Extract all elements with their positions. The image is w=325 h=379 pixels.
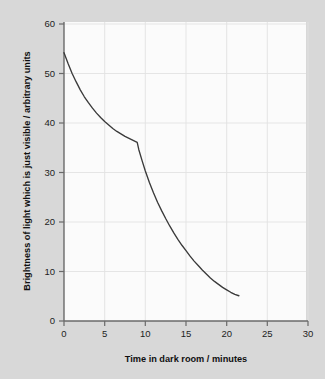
y-tick-label: 50 bbox=[44, 68, 55, 79]
y-tick-label: 30 bbox=[44, 167, 55, 178]
y-tick-label: 10 bbox=[44, 266, 55, 277]
chart-figure: 0 10 20 30 40 50 60 0 5 10 15 20 25 30 T… bbox=[0, 0, 325, 379]
y-tick-label: 60 bbox=[44, 18, 55, 29]
x-tick-label: 30 bbox=[303, 328, 314, 339]
x-tick-label: 10 bbox=[140, 328, 151, 339]
cropped-text-remnant bbox=[0, 0, 3, 1]
y-tick-label: 40 bbox=[44, 117, 55, 128]
x-tick-label: 5 bbox=[102, 328, 107, 339]
plot-panel bbox=[64, 22, 306, 321]
cropped-text-bleed bbox=[0, 0, 325, 7]
x-tick-label: 20 bbox=[221, 328, 232, 339]
x-axis-title: Time in dark room / minutes bbox=[125, 354, 247, 364]
dark-adaptation-chart: 0 10 20 30 40 50 60 0 5 10 15 20 25 30 T… bbox=[0, 0, 325, 379]
y-tick-label: 0 bbox=[50, 315, 55, 326]
x-tick-label: 15 bbox=[181, 328, 192, 339]
y-axis-title: Brightness of light which is just visibl… bbox=[22, 51, 32, 290]
y-tick-label: 20 bbox=[44, 216, 55, 227]
x-tick-label: 25 bbox=[262, 328, 273, 339]
x-tick-label: 0 bbox=[61, 328, 66, 339]
